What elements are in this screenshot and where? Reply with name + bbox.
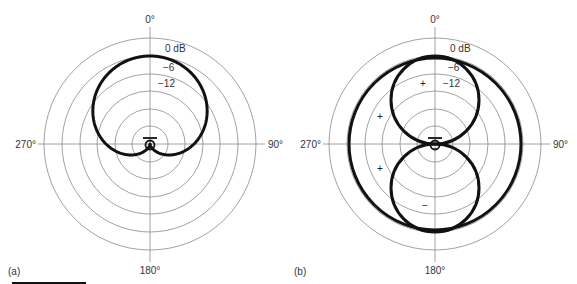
db-label: 0 dB [450,43,471,54]
angle-label-90: 90° [553,139,568,150]
db-label: −12 [158,78,175,89]
angle-label-270: 270° [15,139,36,150]
angle-label-0: 0° [430,14,440,25]
angle-label-180: 180° [140,265,161,276]
polar-pattern-figure: 0°90°180°270°0 dB−6−12(a) 0°90°180°270°0… [0,0,577,284]
panel-label: (a) [8,266,20,277]
angle-label-180: 180° [425,265,446,276]
angle-label-90: 90° [268,139,283,150]
polarity-sign: + [377,111,383,122]
db-label: −6 [163,62,175,73]
db-label: 0 dB [165,43,186,54]
angle-label-270: 270° [300,139,321,150]
db-label: −6 [448,62,460,73]
panel-b-omni-figure-eight: 0°90°180°270°0 dB−6−12+++−(b) [294,14,568,277]
panel-label: (b) [294,266,306,277]
polarity-sign: + [377,163,383,174]
polar-diagrams-canvas: 0°90°180°270°0 dB−6−12(a) 0°90°180°270°0… [0,0,577,284]
polarity-sign: − [422,200,428,211]
polarity-sign: + [420,78,426,89]
panel-a-cardioid: 0°90°180°270°0 dB−6−12(a) [8,14,283,277]
db-label: −12 [443,78,460,89]
angle-label-0: 0° [145,14,155,25]
